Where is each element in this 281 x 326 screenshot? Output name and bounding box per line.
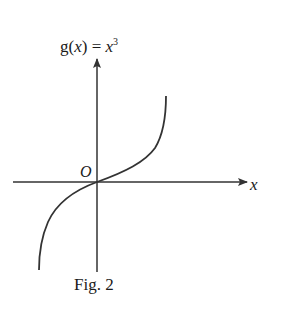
function-label: g(x) = x3: [60, 37, 118, 55]
function-rhs-base: x: [105, 37, 113, 56]
cubic-curve-upper: [97, 96, 166, 182]
x-axis-label: x: [250, 176, 258, 193]
cubic-curve-lower: [39, 182, 97, 270]
figure-caption: Fig. 2: [74, 276, 114, 293]
graph-canvas: [0, 0, 281, 326]
cubic-function-figure: g(x) = x3 O x Fig. 2: [0, 0, 281, 326]
function-rhs-exponent: 3: [113, 36, 118, 47]
function-name: g: [60, 37, 69, 56]
function-arg: x: [74, 37, 82, 56]
origin-label: O: [80, 164, 92, 180]
